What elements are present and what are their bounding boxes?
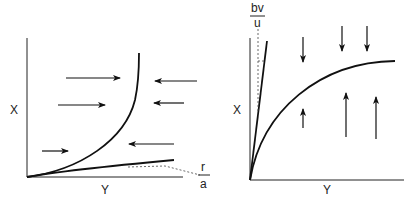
diagram-canvas: X Y r a X Y bv u	[0, 0, 417, 203]
left-dashed-leader	[128, 166, 200, 175]
left-phase-plot: X Y r a	[10, 38, 210, 197]
right-vector-arrows	[303, 26, 376, 139]
left-isocline-line	[27, 160, 174, 177]
left-x-axis-label: Y	[101, 183, 109, 197]
right-saturating-curve	[250, 61, 395, 180]
right-y-axis-label: X	[233, 103, 241, 117]
right-fraction-numerator: bv	[251, 1, 264, 15]
right-steep-line	[250, 41, 267, 180]
right-fraction-denominator: u	[254, 16, 261, 30]
right-phase-plot: X Y bv u	[233, 1, 404, 197]
left-fraction-denominator: a	[200, 177, 207, 191]
left-vector-arrows	[42, 78, 197, 151]
right-x-axis-label: Y	[323, 183, 331, 197]
left-y-axis-label: X	[10, 103, 18, 117]
left-fraction-numerator: r	[201, 160, 205, 174]
left-isocline-curve	[27, 53, 139, 177]
